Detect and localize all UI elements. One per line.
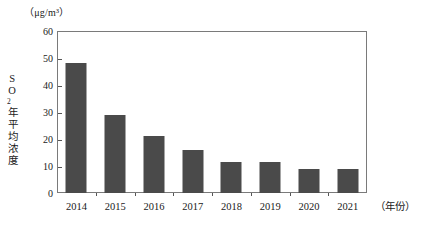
y-axis-tick-label: 60 [43,25,53,38]
x-axis-tick-mark [173,193,174,196]
x-axis-tick-mark [212,193,213,196]
bar-slot [96,31,135,193]
y-axis-title-prefix: SO [7,73,18,97]
bar [221,162,242,193]
bar-slot [173,31,212,193]
x-axis-tick-mark [328,193,329,196]
bar [298,169,319,193]
y-axis-unit-label: （μg/m³） [24,7,69,19]
x-axis-category-label: 2014 [66,200,87,214]
y-axis-title: SO2年平均浓度 [2,60,18,180]
bar-slot [328,31,367,193]
x-axis-tick-mark [135,193,136,196]
y-axis-tick-label: 50 [43,52,53,65]
bar [143,136,164,193]
x-axis-title: （年份） [375,200,415,214]
x-axis-category-label: 2017 [182,200,203,214]
bar-slot [57,31,96,193]
x-axis-category-label: 2016 [143,200,164,214]
x-axis-category-label: 2019 [260,200,281,214]
x-axis-ticks: 20142015201620172018201920202021 [57,193,367,223]
x-axis-tick-mark [96,193,97,196]
bar-slot [251,31,290,193]
x-axis-category-label: 2015 [105,200,126,214]
bar-slot [135,31,174,193]
y-axis-tick-label: 10 [43,160,53,173]
bar [66,63,87,193]
bar-slot [212,31,251,193]
bar-slot [290,31,329,193]
bar [105,115,126,193]
bar [337,169,358,193]
x-axis-category-label: 2021 [337,200,358,214]
x-axis-tick-mark [251,193,252,196]
x-axis-category-label: 2020 [298,200,319,214]
y-axis-tick-label: 30 [43,106,53,119]
bar [260,162,281,193]
y-axis-title-main: 年平均浓度 [7,107,18,167]
bars-container [57,31,367,193]
y-axis-tick-label: 20 [43,133,53,146]
x-axis-category-label: 2018 [221,200,242,214]
x-axis-tick-mark [290,193,291,196]
y-axis-tick-label: 0 [48,187,53,200]
y-axis-tick-label: 40 [43,79,53,92]
y-axis-title-text: SO2年平均浓度 [0,73,19,167]
so2-concentration-bar-chart: （μg/m³） SO2年平均浓度 0102030405060 201420152… [0,0,421,233]
y-axis-title-subscript: 2 [4,97,13,107]
bar [182,150,203,193]
